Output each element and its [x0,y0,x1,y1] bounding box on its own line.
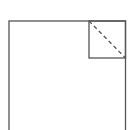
diagram-canvas [0,0,138,130]
dashed-diagonal [89,21,126,58]
outer-rectangle [9,21,126,130]
